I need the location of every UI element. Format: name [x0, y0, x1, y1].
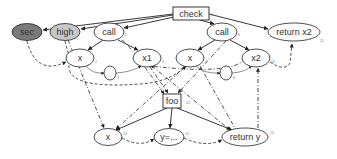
node-call-1[interactable]: call 1: [94, 23, 127, 41]
svg-text:14: 14: [185, 132, 189, 136]
node-x-c[interactable]: x 13: [94, 129, 127, 146]
node-y-assign[interactable]: y=... 14: [154, 129, 189, 146]
svg-text:11: 11: [320, 39, 324, 43]
svg-text:10: 10: [271, 60, 275, 64]
svg-text:check: check: [179, 9, 203, 19]
node-x-b[interactable]: x 7: [176, 49, 207, 67]
node-x2[interactable]: x2 10: [242, 49, 275, 67]
svg-text:call: call: [215, 27, 229, 37]
svg-text:x: x: [78, 53, 83, 63]
svg-text:7: 7: [205, 60, 207, 64]
dependence-graph: check 0 sec high call 1 x 2 x1 5 3 call …: [0, 0, 337, 159]
svg-text:2: 2: [95, 60, 97, 64]
svg-text:1: 1: [125, 33, 127, 37]
node-x-a[interactable]: x 2: [66, 49, 97, 67]
node-check[interactable]: check 0: [173, 7, 213, 20]
node-x1[interactable]: x1 5: [133, 49, 164, 67]
node-return-x2[interactable]: return x2 11: [268, 23, 324, 43]
node-high[interactable]: high: [50, 24, 80, 41]
svg-text:0: 0: [211, 13, 213, 17]
svg-text:return y: return y: [230, 132, 261, 142]
svg-text:8: 8: [233, 76, 235, 80]
svg-text:x: x: [188, 53, 193, 63]
svg-text:3: 3: [117, 76, 119, 80]
svg-text:call: call: [102, 27, 116, 37]
node-call-2[interactable]: call 6: [207, 23, 240, 41]
svg-text:foo: foo: [166, 96, 179, 106]
svg-text:y=...: y=...: [160, 132, 177, 142]
svg-text:5: 5: [162, 60, 164, 64]
parameter-edges: [68, 40, 258, 130]
svg-text:x1: x1: [142, 53, 152, 63]
svg-text:12: 12: [186, 101, 190, 105]
svg-text:15: 15: [270, 131, 274, 135]
svg-text:return x2: return x2: [276, 27, 312, 37]
svg-text:x: x: [106, 132, 111, 142]
svg-text:13: 13: [123, 132, 127, 136]
svg-text:sec: sec: [20, 27, 35, 37]
svg-text:6: 6: [238, 33, 240, 37]
node-sec[interactable]: sec: [12, 24, 42, 41]
svg-text:x2: x2: [251, 53, 261, 63]
node-return-y[interactable]: return y 15: [222, 128, 274, 146]
svg-text:high: high: [56, 27, 73, 37]
node-foo[interactable]: foo 12: [163, 94, 190, 108]
